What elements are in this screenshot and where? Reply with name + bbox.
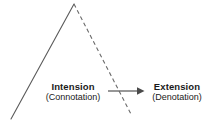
diagram-graphics (0, 0, 215, 124)
denotation-subtitle: (Denotation) (142, 93, 212, 102)
connotation-subtitle: (Connotation) (38, 93, 108, 102)
diagram-canvas: Intension (Connotation) Extension (Denot… (0, 0, 215, 124)
intension-label-group: Intension (Connotation) (38, 82, 108, 102)
intension-title: Intension (38, 82, 108, 92)
extension-title: Extension (142, 82, 212, 92)
extension-label-group: Extension (Denotation) (142, 82, 212, 102)
